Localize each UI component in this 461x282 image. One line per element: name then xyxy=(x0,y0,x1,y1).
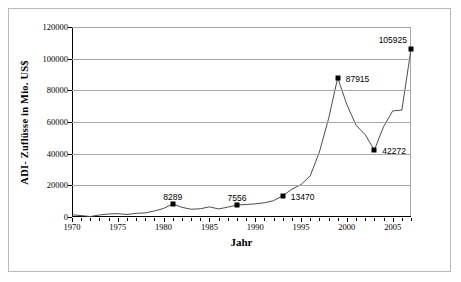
x-tick-label: 1990 xyxy=(247,222,264,232)
plot-area: 82897556134708791542272105925 xyxy=(72,27,411,217)
y-tick-mark xyxy=(68,27,72,28)
data-point-label: 13470 xyxy=(291,192,315,202)
y-tick-label: 100000 xyxy=(43,54,69,64)
data-point-marker xyxy=(335,75,340,80)
y-tick-mark xyxy=(68,90,72,91)
x-tick-mark xyxy=(81,218,82,221)
x-tick-mark xyxy=(127,218,128,221)
gridline xyxy=(72,90,411,91)
x-tick-mark xyxy=(411,218,412,221)
x-tick-mark xyxy=(374,218,375,221)
x-tick-mark xyxy=(365,218,366,221)
gridline xyxy=(72,154,411,155)
x-tick-mark xyxy=(99,218,100,221)
x-axis-title: Jahr xyxy=(72,236,411,248)
x-tick-mark xyxy=(191,218,192,221)
y-tick-label: 80000 xyxy=(47,85,68,95)
x-tick-mark xyxy=(173,218,174,221)
x-tick-mark xyxy=(90,218,91,221)
y-tick-mark xyxy=(68,154,72,155)
data-point-label: 87915 xyxy=(346,74,370,84)
data-point-marker xyxy=(234,203,239,208)
data-point-label: 7556 xyxy=(227,193,246,203)
x-tick-label: 2000 xyxy=(338,222,355,232)
data-point-marker xyxy=(372,148,377,153)
x-axis-tick-labels: 19701975198019851990199520002005 xyxy=(72,218,411,234)
x-tick-mark xyxy=(329,218,330,221)
y-tick-mark xyxy=(68,185,72,186)
data-point-label: 42272 xyxy=(382,146,406,156)
x-tick-mark xyxy=(228,218,229,221)
x-tick-mark xyxy=(109,218,110,221)
y-tick-mark xyxy=(68,122,72,123)
x-tick-label: 1995 xyxy=(293,222,310,232)
x-tick-mark xyxy=(264,218,265,221)
y-tick-mark xyxy=(68,59,72,60)
y-tick-label: 60000 xyxy=(47,117,68,127)
y-tick-label: 20000 xyxy=(47,180,68,190)
data-point-label: 8289 xyxy=(163,192,182,202)
x-tick-mark xyxy=(246,218,247,221)
x-tick-label: 1980 xyxy=(155,222,172,232)
x-tick-mark xyxy=(237,218,238,221)
x-tick-mark xyxy=(219,218,220,221)
data-point-marker xyxy=(170,201,175,206)
x-tick-label: 1975 xyxy=(109,222,126,232)
x-tick-label: 2005 xyxy=(384,222,401,232)
x-tick-mark xyxy=(283,218,284,221)
x-tick-mark xyxy=(356,218,357,221)
x-tick-mark xyxy=(154,218,155,221)
y-axis-tick-labels: 120000100000800006000040000200000 xyxy=(0,27,68,217)
gridline xyxy=(72,27,411,28)
data-point-marker xyxy=(409,47,414,52)
x-tick-mark xyxy=(136,218,137,221)
x-tick-mark xyxy=(274,218,275,221)
x-tick-mark xyxy=(319,218,320,221)
y-tick-label: 120000 xyxy=(43,22,69,32)
gridline xyxy=(72,59,411,60)
x-tick-mark xyxy=(310,218,311,221)
x-tick-mark xyxy=(292,218,293,221)
data-point-marker xyxy=(280,193,285,198)
x-tick-mark xyxy=(200,218,201,221)
x-tick-mark xyxy=(182,218,183,221)
x-tick-mark xyxy=(145,218,146,221)
x-tick-label: 1970 xyxy=(64,222,81,232)
y-tick-label: 40000 xyxy=(47,149,68,159)
gridline xyxy=(72,122,411,123)
chart-figure: ADI- Zuflüsse in Mio. US$ 12000010000080… xyxy=(0,0,461,282)
x-tick-mark xyxy=(338,218,339,221)
gridline xyxy=(72,185,411,186)
x-tick-mark xyxy=(402,218,403,221)
x-tick-mark xyxy=(384,218,385,221)
data-point-label: 105925 xyxy=(379,35,407,45)
x-tick-label: 1985 xyxy=(201,222,218,232)
